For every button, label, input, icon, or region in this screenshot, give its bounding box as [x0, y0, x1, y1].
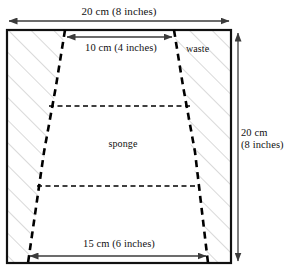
label-bottom-width: 15 cm (6 inches) [30, 238, 208, 250]
label-inner-top-width: 10 cm (4 inches) [61, 42, 181, 54]
label-waste: waste [186, 43, 209, 55]
label-right-height-line2: (8 inches) [241, 139, 286, 151]
label-sponge: sponge [88, 138, 158, 150]
label-right-height-line1: 20 cm [241, 127, 267, 138]
label-right-height: 20 cm (8 inches) [241, 127, 286, 152]
geometry-diagram: 20 cm (8 inches) 10 cm (4 inches) 15 cm … [0, 0, 286, 271]
label-top-width: 20 cm (8 inches) [0, 5, 238, 18]
